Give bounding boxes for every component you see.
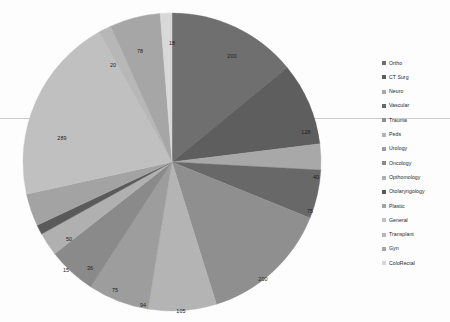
legend-swatch-icon [382, 161, 386, 165]
legend-item-label: General [389, 218, 408, 223]
pie-slice-value-label: 15 [63, 268, 69, 273]
legend-item-label: Oncology [389, 161, 411, 166]
legend-item[interactable]: Ortho [382, 56, 448, 70]
legend-item-label: Urology [389, 146, 407, 151]
legend-swatch-icon [382, 247, 386, 251]
chart-legend: OrthoCT SurgNeuroVascularTraumaPedsUrolo… [382, 56, 448, 270]
pie-slice-value-label: 78 [137, 49, 143, 54]
pie-slice-value-label: 94 [140, 303, 146, 308]
legend-item[interactable]: Neuro [382, 85, 448, 99]
chart-canvas: 20012840752001059475361550289207818 Orth… [0, 0, 450, 322]
legend-item-label: Otolaryngology [389, 189, 425, 194]
legend-item-label: CT Surg [389, 75, 409, 80]
pie-slice-value-label: 36 [87, 266, 93, 271]
legend-item[interactable]: Gyn [382, 242, 448, 256]
pie-slice-value-label: 200 [227, 54, 236, 59]
legend-swatch-icon [382, 118, 386, 122]
legend-swatch-icon [382, 133, 386, 137]
pie-slice-value-label: 18 [169, 41, 175, 46]
pie-slice-value-label: 105 [176, 309, 185, 314]
legend-item-label: Plastic [389, 204, 405, 209]
legend-item-label: ColoRectal [389, 261, 415, 266]
pie-slice-value-label: 75 [307, 209, 313, 214]
pie-slice-value-label: 128 [301, 130, 310, 135]
legend-swatch-icon [382, 61, 386, 65]
legend-item[interactable]: Peds [382, 127, 448, 141]
legend-swatch-icon [382, 176, 386, 180]
legend-item[interactable]: Transplant [382, 228, 448, 242]
legend-item-label: Neuro [389, 89, 403, 94]
legend-swatch-icon [382, 218, 386, 222]
legend-item[interactable]: Plastic [382, 199, 448, 213]
legend-swatch-icon [382, 204, 386, 208]
legend-swatch-icon [382, 90, 386, 94]
pie-slice-value-label: 200 [258, 277, 267, 282]
legend-item[interactable]: General [382, 213, 448, 227]
legend-item-label: Gyn [389, 246, 399, 251]
legend-swatch-icon [382, 147, 386, 151]
legend-item-label: Peds [389, 132, 401, 137]
legend-item-label: Opthomology [389, 175, 420, 180]
legend-item[interactable]: Trauma [382, 113, 448, 127]
legend-item[interactable]: Vascular [382, 99, 448, 113]
legend-swatch-icon [382, 190, 386, 194]
legend-swatch-icon [382, 233, 386, 237]
legend-item-label: Transplant [389, 232, 414, 237]
pie-chart: 20012840752001059475361550289207818 [22, 12, 322, 312]
legend-item[interactable]: Opthomology [382, 170, 448, 184]
legend-item-label: Trauma [389, 118, 407, 123]
legend-swatch-icon [382, 104, 386, 108]
pie-slice-value-label: 75 [112, 288, 118, 293]
legend-swatch-icon [382, 261, 386, 265]
pie-slice-value-label: 289 [57, 136, 66, 141]
pie-slice-group [23, 13, 321, 311]
legend-item-label: Ortho [389, 61, 402, 66]
legend-item[interactable]: ColoRectal [382, 256, 448, 270]
legend-item[interactable]: CT Surg [382, 70, 448, 84]
legend-item[interactable]: Otolaryngology [382, 185, 448, 199]
pie-slice-value-label: 40 [313, 175, 319, 180]
legend-swatch-icon [382, 75, 386, 79]
legend-item[interactable]: Oncology [382, 156, 448, 170]
pie-slice-value-label: 20 [110, 63, 116, 68]
legend-item[interactable]: Urology [382, 142, 448, 156]
legend-item-label: Vascular [389, 103, 409, 108]
pie-slice-value-label: 50 [66, 237, 72, 242]
